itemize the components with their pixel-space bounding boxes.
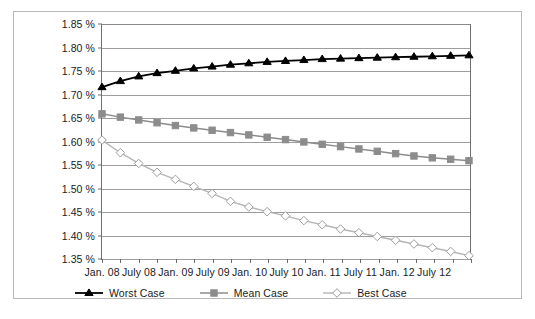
legend-label: Mean Case: [234, 287, 289, 299]
y-tick-label: 1.75 %: [62, 65, 95, 77]
data-point-marker: [337, 143, 343, 149]
data-point-marker: [227, 129, 233, 135]
data-point-marker: [116, 148, 125, 157]
data-point-marker: [210, 290, 216, 296]
data-point-marker: [246, 132, 252, 138]
x-tick-label: Jan. 10: [232, 266, 267, 278]
x-tick-mark: [231, 259, 232, 263]
data-point-marker: [191, 125, 197, 131]
y-tick-label: 1.70 %: [62, 89, 95, 101]
x-tick-mark: [176, 259, 177, 263]
y-tick-label: 1.60 %: [62, 136, 95, 148]
chart-figure: 1.35 %1.40 %1.45 %1.50 %1.55 %1.60 %1.65…: [13, 11, 522, 299]
data-point-marker: [171, 175, 180, 184]
x-tick-mark: [471, 259, 472, 263]
data-point-marker: [301, 139, 307, 145]
series-group: [98, 51, 474, 260]
x-tick-label: July 11: [344, 266, 377, 278]
legend-marker-square-icon: [199, 287, 229, 299]
x-tick-label: July 08: [122, 266, 156, 278]
x-tick-label: July 09: [196, 266, 230, 278]
data-point-marker: [264, 134, 270, 140]
legend-item-worst-case[interactable]: Worst Case: [74, 287, 165, 299]
x-tick-label: Jan. 12: [380, 266, 415, 278]
legend-label: Worst Case: [109, 287, 165, 299]
series-mean-case: [99, 111, 472, 164]
x-tick-mark: [397, 259, 398, 263]
x-tick-mark: [434, 259, 435, 263]
x-tick-mark: [120, 259, 121, 263]
y-tick-label: 1.65 %: [62, 112, 95, 124]
data-point-marker: [392, 150, 398, 156]
data-point-marker: [300, 216, 309, 225]
x-tick-label: Jan. 09: [158, 266, 193, 278]
x-tick-mark: [416, 259, 417, 263]
x-tick-mark: [287, 259, 288, 263]
chart-legend: Worst CaseMean CaseBest Case: [74, 284, 407, 302]
data-point-marker: [447, 156, 453, 162]
x-tick-mark: [453, 259, 454, 263]
x-tick-mark: [250, 259, 251, 263]
x-tick-mark: [157, 259, 158, 263]
data-point-marker: [226, 197, 235, 206]
data-point-marker: [411, 153, 417, 159]
legend-marker-diamond-icon: [322, 287, 352, 299]
x-tick-mark: [305, 259, 306, 263]
y-tick-label: 1.45 %: [62, 206, 95, 218]
x-tick-label: Jan. 08: [84, 266, 119, 278]
data-point-marker: [356, 146, 362, 152]
x-tick-mark: [342, 259, 343, 263]
plot-area: 1.35 %1.40 %1.45 %1.50 %1.55 %1.60 %1.65…: [101, 24, 471, 260]
y-tick-label: 1.80 %: [62, 42, 95, 54]
data-point-marker: [410, 240, 419, 249]
data-point-marker: [134, 159, 143, 168]
data-point-marker: [98, 136, 107, 145]
data-point-marker: [172, 122, 178, 128]
data-point-marker: [355, 228, 364, 237]
data-point-marker: [446, 247, 455, 256]
x-tick-mark: [139, 259, 140, 263]
data-point-marker: [136, 117, 142, 123]
y-tick-label: 1.55 %: [62, 159, 95, 171]
data-point-marker: [209, 127, 215, 133]
x-tick-mark: [360, 259, 361, 263]
data-point-marker: [319, 141, 325, 147]
data-point-marker: [153, 168, 162, 177]
legend-item-best-case[interactable]: Best Case: [322, 287, 406, 299]
data-point-marker: [282, 136, 288, 142]
data-point-marker: [466, 157, 472, 163]
x-tick-label: Jan. 11: [306, 266, 340, 278]
x-tick-label: July 12: [417, 266, 451, 278]
data-point-marker: [208, 189, 217, 198]
x-tick-mark: [323, 259, 324, 263]
data-point-marker: [281, 212, 290, 221]
y-tick-label: 1.85 %: [62, 18, 95, 30]
x-tick-mark: [379, 259, 380, 263]
data-point-marker: [391, 236, 400, 245]
data-point-marker: [189, 182, 198, 191]
legend-marker-triangle-icon: [74, 287, 104, 299]
data-point-marker: [428, 243, 437, 252]
y-tick-label: 1.50 %: [62, 183, 95, 195]
x-tick-mark: [194, 259, 195, 263]
data-point-marker: [373, 232, 382, 241]
legend-item-mean-case[interactable]: Mean Case: [199, 287, 289, 299]
x-tick-label: July 10: [270, 266, 304, 278]
series-layer: [102, 24, 470, 259]
series-worst-case: [98, 51, 473, 89]
x-tick-mark: [268, 259, 269, 263]
y-tick-label: 1.40 %: [62, 230, 95, 242]
legend-label: Best Case: [357, 287, 406, 299]
data-point-marker: [374, 148, 380, 154]
data-point-marker: [318, 220, 327, 229]
x-tick-mark: [102, 259, 103, 263]
data-point-marker: [263, 207, 272, 216]
data-point-marker: [245, 203, 254, 212]
data-point-marker: [333, 289, 342, 298]
data-point-marker: [117, 114, 123, 120]
data-point-marker: [429, 155, 435, 161]
plot-wrapper: 1.35 %1.40 %1.45 %1.50 %1.55 %1.60 %1.65…: [101, 24, 471, 260]
y-tick-label: 1.35 %: [62, 253, 95, 265]
data-point-marker: [154, 120, 160, 126]
data-point-marker: [99, 111, 105, 117]
